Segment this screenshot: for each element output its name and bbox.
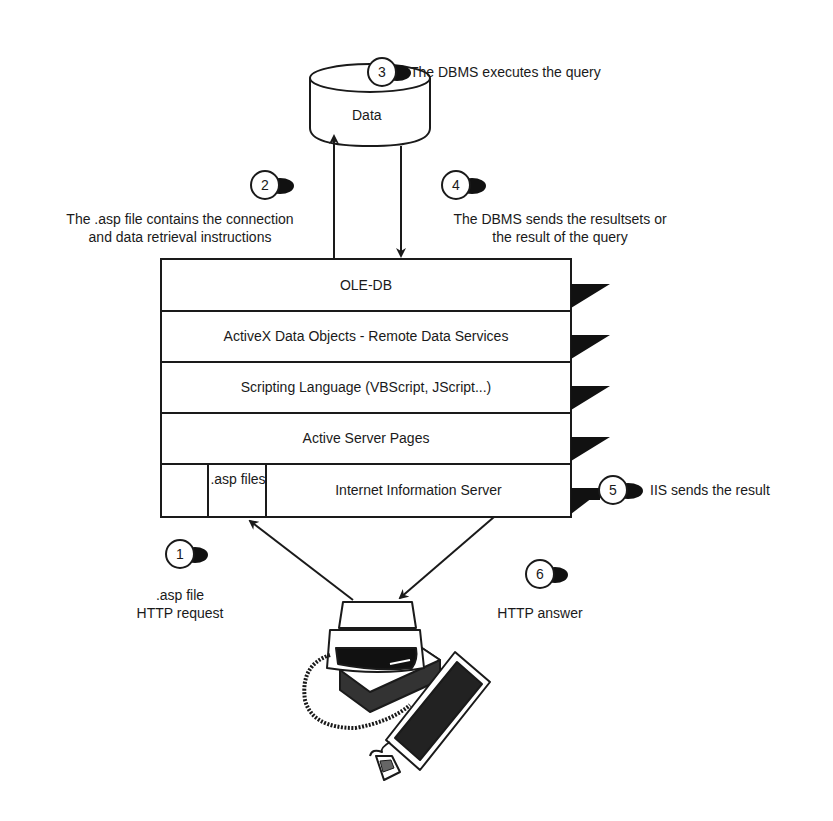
step-4-description-line2: the result of the query <box>425 228 695 246</box>
step-number-3: 3 <box>372 63 392 81</box>
layer-scripting-language: Scripting Language (VBScript, JScript...… <box>161 379 571 395</box>
step-1-description-line2: HTTP request <box>120 604 240 622</box>
step-5-description: IIS sends the result <box>650 481 770 499</box>
layer-active-server-pages: Active Server Pages <box>161 430 571 446</box>
layer-ado-rds: ActiveX Data Objects - Remote Data Servi… <box>161 328 571 344</box>
arrow-http-answer <box>400 517 494 598</box>
step-number-2: 2 <box>255 176 275 194</box>
step-2-description-line2: and data retrieval instructions <box>30 228 330 246</box>
database-label: Data <box>352 106 382 124</box>
step-1-description-line1: .asp file <box>120 586 240 604</box>
step-3-description: The DBMS executes the query <box>410 63 601 81</box>
desktop-computer-icon <box>304 602 490 780</box>
step-6-description: HTTP answer <box>480 604 600 622</box>
step-number-5: 5 <box>603 481 623 499</box>
layer-iis: Internet Information Server <box>266 482 571 498</box>
step-4-description-line1: The DBMS sends the resultsets or <box>425 210 695 228</box>
diagram-canvas <box>0 0 833 821</box>
asp-files-label: .asp files <box>210 470 266 488</box>
step-number-6: 6 <box>530 565 550 583</box>
layer-ole-db: OLE-DB <box>161 277 571 293</box>
step-2-description-line1: The .asp file contains the connection <box>30 210 330 228</box>
arrow-http-request <box>250 521 353 600</box>
step-number-4: 4 <box>446 176 466 194</box>
step-number-1: 1 <box>170 545 190 563</box>
